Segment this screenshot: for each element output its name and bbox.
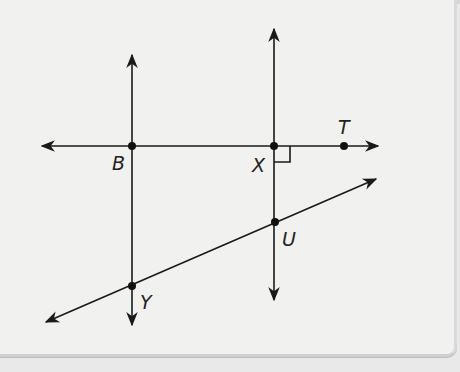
point-t: [340, 142, 348, 150]
transversal-line: [46, 179, 376, 322]
label-x: X: [251, 154, 266, 176]
point-y: [128, 282, 136, 290]
label-t: T: [338, 116, 351, 138]
point-b: [128, 142, 136, 150]
label-y: Y: [140, 291, 153, 313]
label-b: B: [112, 152, 125, 174]
label-u: U: [282, 228, 296, 250]
point-u: [271, 218, 279, 226]
geometry-diagram: B X T U Y: [0, 0, 460, 372]
point-x: [270, 142, 278, 150]
